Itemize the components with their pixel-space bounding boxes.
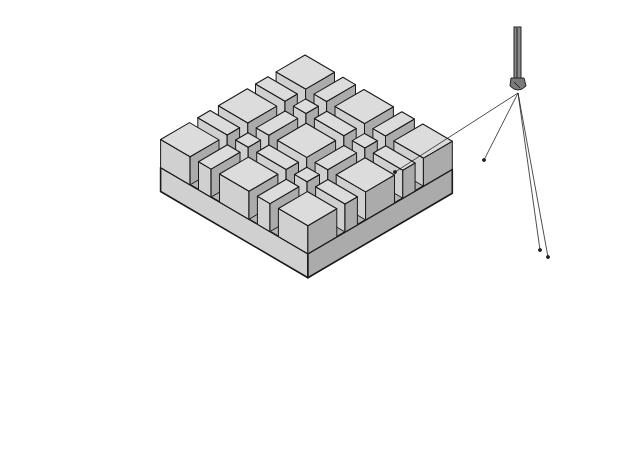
router-bit-icon [510,27,526,90]
grooved-panel [161,55,453,278]
grooved-panel-illustration [0,0,623,454]
